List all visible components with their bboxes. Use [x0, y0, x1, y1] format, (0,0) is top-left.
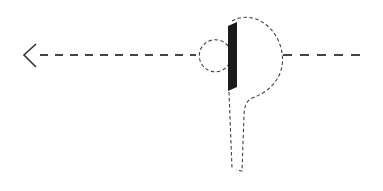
swing-diagram: [0, 0, 383, 191]
arrow-left-icon: [24, 44, 36, 67]
swing-loop: [232, 17, 283, 171]
swing-stem-left: [229, 92, 232, 168]
diagram-canvas: [0, 0, 383, 191]
paddle-bar: [228, 22, 237, 91]
ball-circle: [199, 40, 229, 72]
